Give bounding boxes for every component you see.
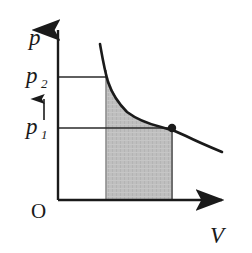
p2-tick-label: p 2 — [24, 63, 48, 91]
pv-diagram-canvas: p V O p 2 p 1 — [0, 0, 252, 253]
state-point — [168, 124, 176, 132]
origin-label: O — [31, 199, 46, 223]
x-axis-label: V — [210, 223, 227, 248]
y-axis-label: p — [27, 25, 41, 50]
p1-subscript: 1 — [41, 127, 48, 142]
p1-base: p — [24, 114, 38, 139]
p2-base: p — [24, 63, 38, 88]
work-area — [106, 70, 172, 200]
pv-diagram-figure: p V O p 2 p 1 — [0, 0, 252, 253]
p2-subscript: 2 — [41, 76, 48, 91]
